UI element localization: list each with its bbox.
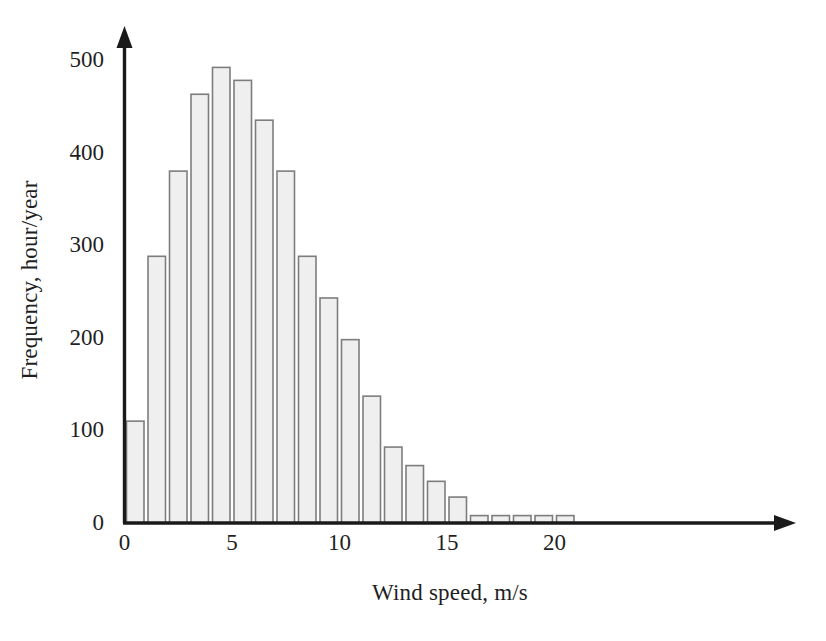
bar (406, 466, 424, 523)
bar (170, 171, 188, 523)
plot-area (0, 0, 826, 641)
bar (449, 497, 467, 523)
bar (320, 298, 338, 523)
bar (299, 256, 317, 523)
x-axis-title-text: Wind speed, m/s (372, 580, 528, 605)
x-axis-arrowhead (774, 515, 796, 531)
bar (213, 67, 231, 523)
bar (385, 447, 403, 523)
x-axis-title: Wind speed, m/s (120, 580, 780, 606)
bar (191, 94, 209, 523)
wind-speed-frequency-chart: Frequency, hour/year 0100200300400500 05… (0, 0, 826, 641)
bar (428, 481, 446, 523)
bar (127, 421, 145, 523)
bar (234, 80, 252, 523)
y-axis-arrowhead (117, 26, 133, 48)
bar (363, 396, 381, 523)
bar (342, 340, 360, 523)
bars-group (127, 67, 575, 523)
bar (277, 171, 295, 523)
bar (148, 256, 166, 523)
bar (256, 120, 274, 523)
